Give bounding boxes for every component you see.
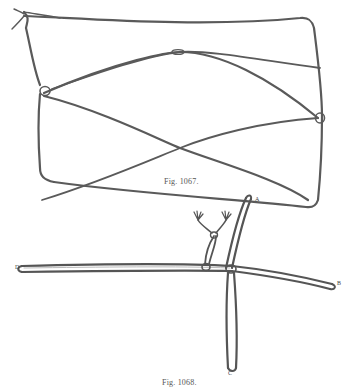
figure-caption: Fig. 1067. bbox=[164, 177, 199, 186]
figure-1068-drawing bbox=[18, 195, 335, 371]
point-label-b: B bbox=[337, 280, 341, 286]
point-label-c: C bbox=[228, 370, 232, 376]
point-label-a: A bbox=[255, 196, 259, 202]
figure-caption: Fig. 1068. bbox=[162, 378, 197, 387]
point-label-d: D bbox=[15, 264, 19, 270]
